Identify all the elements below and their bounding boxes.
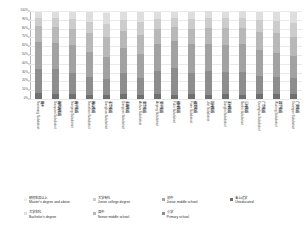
bar-segment xyxy=(188,73,195,94)
x-axis-label-en: Wuning Subdistrict xyxy=(273,101,277,127)
bar-slot xyxy=(132,11,149,99)
bar-segment xyxy=(273,21,280,33)
bar-segment xyxy=(222,12,229,19)
x-axis-label: 福安街道Fuan Subdistrict xyxy=(188,101,195,123)
bar-segment xyxy=(290,56,297,78)
x-axis-label-en: Jilin Subdistrict xyxy=(205,101,209,121)
legend-item[interactable]: 大学本科Bachelor's degree xyxy=(24,210,93,218)
bar-segment xyxy=(154,19,161,29)
x-label-slot: 东南街道Dongnan Subdistrict xyxy=(115,100,132,180)
bar-segment xyxy=(256,94,263,99)
bar-segment xyxy=(35,18,42,26)
bar-segment xyxy=(154,71,161,94)
legend-label-en: Junior college degree xyxy=(98,200,130,204)
bar-segment xyxy=(154,29,161,45)
stacked-bar[interactable] xyxy=(273,11,280,99)
stacked-bar[interactable] xyxy=(239,11,246,99)
bar-segment xyxy=(103,37,110,56)
legend-swatch xyxy=(93,212,96,215)
bar-segment xyxy=(256,12,263,20)
x-axis-label: 东林街道Donglin Subdistrict xyxy=(222,101,229,127)
bar-segment xyxy=(188,94,195,99)
x-axis-label: 东华街道Donghua Subdistrict xyxy=(103,101,110,129)
bar-segment xyxy=(103,13,110,24)
stacked-bar[interactable] xyxy=(188,11,195,99)
stacked-bar[interactable] xyxy=(137,11,144,99)
legend-item[interactable]: 初中Junior middle school xyxy=(162,196,231,204)
x-axis-label-en: Anping Subdistrict xyxy=(154,101,158,126)
legend-item[interactable]: 大学专科Junior college degree xyxy=(93,196,162,204)
bar-segment xyxy=(69,45,76,72)
bar-slot xyxy=(217,11,234,99)
bar-series-container xyxy=(30,11,302,99)
bar-segment xyxy=(86,33,93,51)
bar-segment xyxy=(137,35,144,54)
bar-segment xyxy=(205,95,212,99)
bar-segment xyxy=(239,11,246,18)
stacked-bar[interactable] xyxy=(103,11,110,99)
stacked-bar[interactable] xyxy=(256,11,263,99)
stacked-bar[interactable] xyxy=(120,11,127,99)
legend-item[interactable]: 高中Senior middle school xyxy=(93,210,162,218)
bar-segment xyxy=(52,69,59,94)
bar-slot xyxy=(166,11,183,99)
stacked-bar[interactable] xyxy=(86,11,93,99)
stacked-bar[interactable] xyxy=(154,11,161,99)
stacked-bar[interactable] xyxy=(171,11,178,99)
bar-slot xyxy=(251,11,268,99)
bar-segment xyxy=(171,18,178,27)
bar-segment xyxy=(120,12,127,20)
x-label-slot: 南山街道Nanshan Subdistrict xyxy=(81,100,98,180)
bar-segment xyxy=(222,94,229,99)
x-axis-label-en: Donghua Subdistrict xyxy=(103,101,107,129)
bar-slot xyxy=(98,11,115,99)
bar-segment xyxy=(239,44,246,71)
stacked-bar[interactable] xyxy=(52,11,59,99)
stacked-bar[interactable] xyxy=(222,11,229,99)
x-label-slot: 武宁街道Wuning Subdistrict xyxy=(268,100,285,180)
bar-segment xyxy=(35,69,42,93)
education-composition-chart: 100%90%80%70%60%50%40%30%20%10%0% 南乡Nanx… xyxy=(0,0,307,240)
bar-slot xyxy=(149,11,166,99)
legend-label-en: Primary school xyxy=(167,215,189,219)
bar-segment xyxy=(205,71,212,95)
bar-segment xyxy=(171,95,178,99)
bar-slot xyxy=(200,11,217,99)
stacked-bar[interactable] xyxy=(205,11,212,99)
bar-segment xyxy=(35,93,42,99)
legend-label-en: Uneducated xyxy=(235,200,253,204)
bar-segment xyxy=(256,76,263,94)
chart-legend: 研究生及以上Master's degree and above大学专科Junio… xyxy=(24,196,299,225)
stacked-bar[interactable] xyxy=(35,11,42,99)
y-axis-ticks: 100%90%80%70%60%50%40%30%20%10%0% xyxy=(0,11,28,99)
x-label-slot: 南院南街道Nanyuan Subdistrict xyxy=(47,100,64,180)
bar-segment xyxy=(120,20,127,31)
bar-segment xyxy=(137,54,144,78)
bar-segment xyxy=(86,12,93,21)
stacked-bar[interactable] xyxy=(290,11,297,99)
bar-segment xyxy=(52,94,59,99)
x-axis-label: 福林街道Fulin Subdistrict xyxy=(171,101,178,123)
bar-segment xyxy=(86,77,93,95)
legend-item[interactable]: 小学Primary school xyxy=(162,210,231,218)
x-axis-label-en: Nanping Subdistrict xyxy=(69,101,73,128)
x-label-slot: 东林街道Donglin Subdistrict xyxy=(217,100,234,180)
bar-segment xyxy=(205,28,212,45)
x-axis-label: 南院南街道Nanyuan Subdistrict xyxy=(52,101,59,129)
bar-segment xyxy=(273,77,280,95)
bar-segment xyxy=(290,12,297,23)
legend-item[interactable]: 研究生及以上Master's degree and above xyxy=(24,196,93,204)
bar-segment xyxy=(103,79,110,95)
legend-swatch xyxy=(162,198,165,201)
y-axis-tick-label: 100% xyxy=(20,9,28,12)
bar-segment xyxy=(137,78,144,96)
bar-segment xyxy=(103,95,110,99)
bar-segment xyxy=(290,94,297,99)
bar-segment xyxy=(205,18,212,28)
legend-item[interactable]: 未上过学Uneducated xyxy=(230,196,299,204)
bar-slot xyxy=(234,11,251,99)
bar-segment xyxy=(188,44,195,72)
x-label-slot: 广安街道Guangan Subdistrict xyxy=(285,100,302,180)
bar-segment xyxy=(171,68,178,94)
stacked-bar[interactable] xyxy=(69,11,76,99)
